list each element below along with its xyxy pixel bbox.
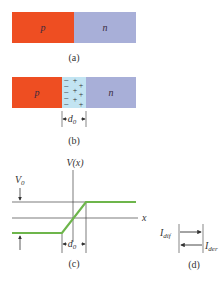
panel-c: V(x) x V0 d0 (c) xyxy=(12,157,147,270)
potential-curve xyxy=(12,202,136,233)
panel-d: Idif Ider (d) xyxy=(159,224,218,271)
positive-charge: + xyxy=(79,90,84,99)
caption-a: (a) xyxy=(68,52,79,64)
positive-charge: + xyxy=(73,76,78,85)
depletion-width-label: d0 xyxy=(68,238,77,251)
v-axis-label: V(x) xyxy=(66,157,84,169)
p-region-label: p xyxy=(34,87,40,98)
depletion-width-label: d0 xyxy=(68,113,77,126)
p-region-label: p xyxy=(40,22,46,33)
positive-charge: + xyxy=(73,95,78,104)
positive-charge: + xyxy=(73,86,78,95)
panel-b: p n −−−−−++++++ d0 (b) xyxy=(12,75,136,147)
diffusion-current-label: Idif xyxy=(159,227,172,240)
caption-b: (b) xyxy=(68,135,80,147)
caption-c: (c) xyxy=(68,258,79,270)
negative-charge: − xyxy=(63,99,68,109)
n-region-label: n xyxy=(109,87,114,98)
space-charges: −−−−−++++++ xyxy=(63,75,83,109)
caption-d: (d) xyxy=(188,259,200,271)
n-region-label: n xyxy=(103,22,108,33)
drift-current-label: Ider xyxy=(204,240,218,253)
positive-charge: + xyxy=(79,81,84,90)
x-axis-label: x xyxy=(141,212,147,223)
pn-junction-diagram: p n (a) p n −−−−−++++++ d0 (b) V(x) x V0… xyxy=(0,0,224,281)
panel-a: p n (a) xyxy=(12,12,136,64)
positive-charge: + xyxy=(79,100,84,109)
barrier-label: V0 xyxy=(15,174,25,187)
